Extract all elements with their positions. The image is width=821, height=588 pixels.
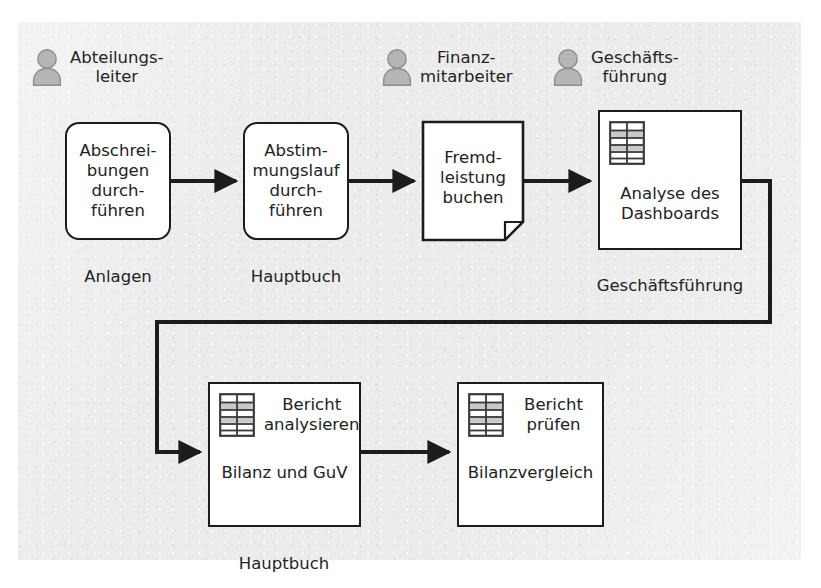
diagram-canvas: Abteilungs- leiter Finanz- mitarbeiter G… (0, 0, 821, 588)
caption-text: Hauptbuch (251, 267, 341, 286)
person-icon (551, 48, 585, 86)
report-title: Bericht analysieren (264, 393, 359, 435)
actor-label: Abteilungs- leiter (70, 48, 164, 86)
report-title (654, 121, 732, 123)
node-abschreibungen-caption: Anlagen (45, 247, 191, 287)
node-bericht-pruefen[interactable]: Bericht prüfen Bilanzvergleich (457, 382, 604, 527)
node-abstimmungslauf[interactable]: Abstim- mungslauf durch- führen (243, 122, 349, 240)
person-icon (380, 48, 414, 86)
node-fremdleistung[interactable]: Fremd- leistung buchen (421, 120, 525, 242)
person-icon (30, 48, 64, 86)
node-abschreibungen[interactable]: Abschrei- bungen durch- führen (65, 122, 171, 240)
caption-text: Geschäftsführung (597, 276, 744, 295)
actor-label: Geschäfts- führung (591, 48, 679, 86)
node-label: Fremd- leistung buchen (440, 148, 506, 214)
report-header (609, 121, 732, 169)
node-bericht-analysieren-caption: Hauptbuch (204, 534, 364, 574)
actor-geschaeftsfuehrung: Geschäfts- führung (551, 48, 679, 86)
report-subtitle: Analyse des Dashboards (600, 184, 740, 224)
report-subtitle: Bilanz und GuV (210, 463, 359, 483)
node-abstimmungslauf-caption: Hauptbuch (223, 247, 369, 287)
node-analyse-dashboard-caption: Geschäftsführung (588, 256, 752, 296)
actor-finanzmitarbeiter: Finanz- mitarbeiter (380, 48, 513, 86)
report-header: Bericht prüfen (468, 393, 594, 441)
actor-label: Finanz- mitarbeiter (420, 48, 513, 86)
report-subtitle: Bilanzvergleich (459, 463, 602, 483)
actor-abteilungsleiter: Abteilungs- leiter (30, 48, 164, 86)
node-label: Abschrei- bungen durch- führen (80, 141, 157, 222)
report-title: Bericht prüfen (513, 393, 594, 435)
table-grid-icon (609, 121, 645, 169)
caption-text: Hauptbuch (239, 554, 329, 573)
node-label: Abstim- mungslauf durch- führen (252, 141, 339, 222)
node-analyse-dashboard[interactable]: Analyse des Dashboards (598, 110, 742, 250)
report-header: Bericht analysieren (219, 393, 351, 441)
table-grid-icon (219, 393, 255, 441)
node-bericht-analysieren[interactable]: Bericht analysieren Bilanz und GuV (208, 382, 361, 527)
caption-text: Anlagen (84, 267, 152, 286)
table-grid-icon (468, 393, 504, 441)
